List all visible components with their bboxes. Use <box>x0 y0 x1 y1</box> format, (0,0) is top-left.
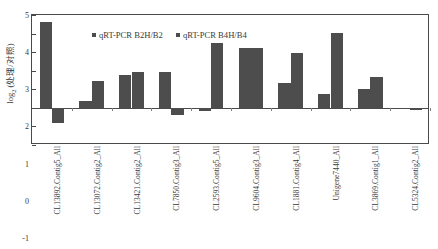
bar-series-0 <box>398 108 410 109</box>
bar-series-1 <box>132 72 144 108</box>
bar-series-1 <box>291 53 303 108</box>
legend-item-series-1: qRT-PCR B4H/B4 <box>176 31 247 40</box>
y-axis-tick-mark: 4 <box>32 34 36 35</box>
bar-series-1 <box>171 108 183 115</box>
x-axis-label: CL13892.Contig5_All <box>54 146 62 215</box>
x-axis-tick-mark <box>72 108 73 111</box>
legend-item-series-0: qRT-PCR B2H/B2 <box>92 31 163 40</box>
legend-swatch-icon <box>176 33 180 37</box>
bar-series-0 <box>199 108 211 111</box>
x-axis-label: CL1881.Contig4_All <box>293 146 301 211</box>
y-axis-tick-label: 0 <box>25 198 29 206</box>
x-axis-label: CL9604.Contig3_All <box>253 146 261 211</box>
bar-series-1 <box>370 77 382 108</box>
y-axis-tick-label: 2 <box>25 123 29 131</box>
x-axis-label: CL2593.Contig5_All <box>213 146 221 211</box>
bar-series-0 <box>239 48 251 108</box>
x-axis-label: Unigene7440_All <box>333 146 341 200</box>
x-axis-tick-mark <box>430 108 431 111</box>
y-axis-title: log2 (处理/对照) <box>6 29 17 119</box>
bar-series-0 <box>159 72 171 107</box>
y-axis-title-base: log <box>5 93 15 104</box>
y-axis-tick-mark: 5 <box>32 15 36 16</box>
x-axis-tick-mark <box>151 108 152 111</box>
bar-series-0 <box>79 101 91 108</box>
chart-legend: qRT-PCR B2H/B2 qRT-PCR B4H/B4 <box>92 31 247 40</box>
bar-series-1 <box>410 108 422 110</box>
bar-series-1 <box>211 43 223 108</box>
x-axis-label: CL13072.Contig2_All <box>94 146 102 215</box>
y-axis-tick-mark: 2 <box>32 71 36 72</box>
x-axis-tick-mark <box>350 108 351 111</box>
x-axis-tick-mark <box>231 108 232 111</box>
bar-series-1 <box>52 108 64 123</box>
legend-label-series-1: qRT-PCR B4H/B4 <box>183 31 247 40</box>
zero-baseline <box>32 108 428 109</box>
legend-swatch-icon <box>92 33 96 37</box>
legend-label-series-0: qRT-PCR B2H/B2 <box>99 31 163 40</box>
y-axis-tick-label: 4 <box>25 49 29 57</box>
x-axis-label: CL7850.Contig3_All <box>173 146 181 211</box>
bar-series-1 <box>92 81 104 107</box>
y-axis-title-rest: (处理/对照) <box>5 43 15 89</box>
x-axis-tick-mark <box>271 108 272 111</box>
y-axis-title-subscript: 2 <box>10 90 17 93</box>
bar-series-1 <box>331 33 343 108</box>
bar-series-0 <box>40 22 52 108</box>
y-axis-tick-mark: -1 <box>32 126 36 127</box>
bar-series-1 <box>251 48 263 108</box>
plot-area: qRT-PCR B2H/B2 qRT-PCR B4H/B4 -2-1012345 <box>31 14 429 144</box>
y-axis-tick-label: 3 <box>25 86 29 94</box>
y-axis-tick-label: 5 <box>25 12 29 20</box>
y-axis-tick-label: -1 <box>22 235 29 243</box>
x-axis-tick-mark <box>390 108 391 111</box>
x-axis-labels: CL13892.Contig5_AllCL13072.Contig2_AllCL… <box>31 146 429 246</box>
x-axis-label: CL3869.Contig1_All <box>372 146 380 211</box>
bar-series-0 <box>318 94 330 108</box>
bar-series-0 <box>358 89 370 108</box>
x-axis-tick-mark <box>191 108 192 111</box>
bar-series-0 <box>278 83 290 108</box>
y-axis-tick-mark: 3 <box>32 52 36 53</box>
chart-figure: log2 (处理/对照) qRT-PCR B2H/B2 qRT-PCR B4H/… <box>0 0 438 249</box>
x-axis-label: CL13421.Contig2_All <box>134 146 142 215</box>
bar-series-0 <box>119 75 131 108</box>
x-axis-tick-mark <box>311 108 312 111</box>
y-axis-tick-label: 1 <box>25 161 29 169</box>
x-axis-tick-mark <box>112 108 113 111</box>
x-axis-label: CL5324.Contig2_All <box>412 146 420 211</box>
y-axis-tick-mark: 1 <box>32 89 36 90</box>
